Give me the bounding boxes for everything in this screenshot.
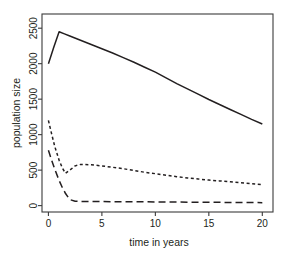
x-tick-label: 5 <box>99 218 105 229</box>
y-axis-title: population size <box>10 78 22 148</box>
population-line-chart: 05101520 05001000150020002500 time in ye… <box>0 0 288 262</box>
y-tick-label: 1500 <box>29 88 40 111</box>
series-short-dash-curve <box>48 120 262 184</box>
series-solid-curve <box>48 32 262 124</box>
chart-figure: 05101520 05001000150020002500 time in ye… <box>0 0 288 262</box>
series-long-dash-curve <box>48 150 262 202</box>
x-tick-label: 15 <box>203 218 215 229</box>
y-tick-label: 1000 <box>29 123 40 146</box>
y-tick-label: 2000 <box>28 52 39 75</box>
x-axis-ticks <box>48 212 262 216</box>
y-tick-label: 0 <box>29 202 40 208</box>
x-axis-title: time in years <box>129 236 189 248</box>
x-tick-label: 10 <box>150 218 162 229</box>
y-axis-tick-labels: 05001000150020002500 <box>28 17 39 209</box>
x-tick-label: 20 <box>257 218 269 229</box>
x-tick-label: 0 <box>46 218 52 229</box>
x-axis-tick-labels: 05101520 <box>46 218 269 229</box>
data-series-group <box>48 32 262 203</box>
y-tick-label: 500 <box>29 161 40 178</box>
y-tick-label: 2500 <box>29 17 40 40</box>
